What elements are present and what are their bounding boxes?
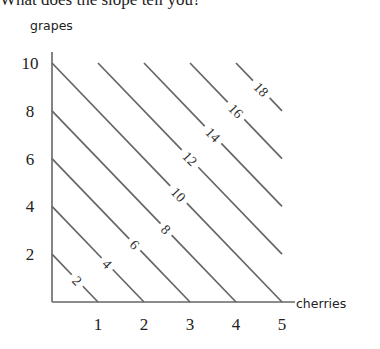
contour-label-6: 6	[127, 237, 143, 252]
contour-line-12	[98, 63, 182, 150]
contour-line-10	[52, 63, 170, 186]
y-tick-label: 4	[26, 197, 35, 216]
contour-line-2	[83, 286, 98, 302]
contour-line-18	[236, 63, 253, 81]
contour-line-14	[221, 143, 282, 206]
contour-line-18	[270, 98, 282, 111]
contour-line-14	[144, 63, 205, 126]
y-axis-label: grapes	[30, 18, 73, 33]
contour-line-6	[140, 250, 190, 302]
contour-line-16	[190, 63, 228, 102]
contour-line-10	[187, 203, 282, 302]
contour-line-8	[52, 111, 161, 224]
contour-label-16: 16	[225, 101, 246, 121]
contour-label-8: 8	[158, 222, 174, 237]
x-tick-label: 1	[94, 315, 103, 334]
y-tick-label: 10	[22, 54, 39, 73]
contour-line-2	[52, 254, 72, 275]
contour-label-12: 12	[179, 149, 200, 169]
y-tick-label: 8	[26, 102, 35, 121]
contour-label-4: 4	[99, 256, 115, 271]
contour-label-10: 10	[168, 185, 189, 205]
y-tick-label: 6	[26, 150, 35, 169]
x-tick-label: 4	[232, 315, 241, 334]
labels: cherriesgrapes1234524681024681012141618	[22, 18, 347, 334]
contour-line-16	[244, 119, 282, 158]
x-tick-label: 2	[140, 315, 149, 334]
y-tick-label: 2	[26, 245, 35, 264]
contour-line-4	[113, 270, 144, 302]
contour-label-18: 18	[251, 79, 272, 99]
contour-label-2: 2	[69, 273, 85, 288]
contour-line-4	[52, 206, 102, 258]
contour-line-12	[198, 167, 282, 254]
x-tick-label: 5	[278, 315, 287, 334]
x-tick-label: 3	[186, 315, 195, 334]
contour-line-6	[52, 159, 129, 239]
x-axis-label: cherries	[296, 296, 346, 311]
contour-label-14: 14	[202, 125, 223, 145]
contour-chart: cherriesgrapes1234524681024681012141618	[0, 0, 380, 349]
contour-lines	[52, 63, 282, 302]
